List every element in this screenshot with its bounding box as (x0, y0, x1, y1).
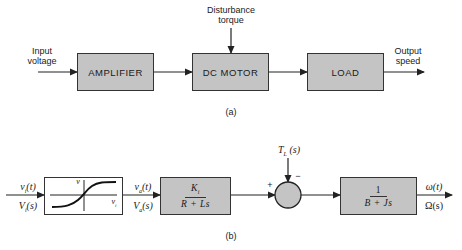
dc-motor-block: DC MOTOR (192, 53, 269, 91)
mid-va-s: Va(s) (128, 201, 158, 215)
caption-a: (a) (216, 107, 246, 117)
load-block: LOAD (307, 53, 384, 91)
saturation-y-label: v (74, 177, 82, 187)
input-vi-s: Vi(s) (14, 201, 42, 215)
output-omega-t: ω(t) (420, 182, 448, 192)
input-voltage-label: Input voltage (22, 46, 62, 66)
summing-junction (275, 182, 301, 208)
mid-va-t: va(t) (128, 182, 158, 196)
input-vi-t: vi(t) (14, 182, 42, 196)
output-speed-label: Output speed (388, 46, 428, 66)
saturation-x-label: vi (108, 197, 120, 211)
electrical-transfer-block: Ki R + Ls (160, 177, 231, 215)
sum-minus-sign: − (294, 171, 302, 181)
caption-b: (b) (216, 231, 246, 241)
sum-plus-sign: + (266, 180, 274, 190)
disturbance-tl-label: TL (s) (274, 145, 304, 159)
mechanical-transfer-block: 1 B + Js (340, 177, 417, 215)
output-omega-s: Ω(s) (420, 201, 448, 211)
disturbance-torque-label: Disturbance torque (196, 5, 266, 25)
amplifier-block: AMPLIFIER (77, 53, 154, 91)
